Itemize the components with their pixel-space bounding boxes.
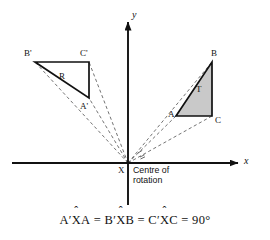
eq-term2-hat: ˆ (119, 206, 123, 218)
eq-term2-letter: B (105, 213, 114, 227)
eq-term1-hat: ˆ (74, 206, 78, 218)
construction-line-to-A (128, 116, 176, 163)
eq-term2-vertex-wrap: ˆX (116, 213, 125, 228)
eq-equals-2: = (138, 213, 145, 227)
vertex-label-A-prime: A' (80, 102, 88, 111)
vertex-label-B-prime: B' (24, 49, 32, 58)
eq-term2-letter2: B (125, 213, 134, 227)
shape-label-T: T (196, 85, 202, 94)
eq-term1-letter2: A (81, 213, 90, 227)
origin-label-X: X (118, 166, 125, 175)
angle-mark-group (138, 150, 145, 159)
vertex-label-C-prime: C' (80, 49, 88, 58)
vertex-label-A: A (168, 110, 175, 119)
eq-term3-letter2: C (169, 213, 178, 227)
angle-mark-2 (141, 157, 146, 159)
eq-term3-vertex-wrap: ˆX (160, 213, 169, 228)
angle-mark-3 (138, 150, 142, 153)
angle-equation: A′ˆXA = B′ˆXB = C′ˆXC = 90° (0, 213, 270, 228)
rotation-diagram-figure: x y X Centre of rotation B' C' A' R B A … (0, 0, 270, 240)
diagram-canvas (0, 0, 270, 240)
eq-value: 90° (192, 213, 210, 227)
y-axis-label: y (132, 10, 136, 21)
construction-line-to-C (128, 116, 212, 163)
vertex-label-B: B (211, 49, 217, 58)
vertex-label-C: C (215, 116, 221, 125)
centre-of-rotation-line2: rotation (133, 175, 162, 185)
construction-line-to-C-prime (89, 62, 128, 163)
eq-term1-vertex-wrap: ˆX (72, 213, 81, 228)
centre-of-rotation-line1: Centre of (133, 165, 169, 175)
eq-term1-letter: A (59, 213, 68, 227)
eq-equals-3: = (181, 213, 188, 227)
shape-label-R: R (59, 72, 65, 81)
x-axis-label: x (244, 156, 248, 167)
construction-line-to-A-prime (89, 98, 128, 163)
eq-term3-letter: C (148, 213, 157, 227)
eq-term3-hat: ˆ (162, 206, 166, 218)
triangle-T-shape (176, 62, 212, 116)
